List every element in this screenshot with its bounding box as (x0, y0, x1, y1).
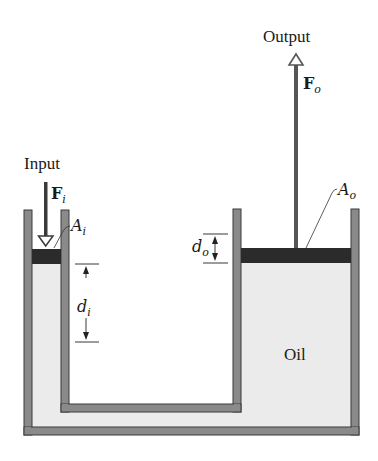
outer-right-wall (351, 209, 359, 435)
output-label: Output (263, 27, 311, 46)
inner-left-wall (61, 210, 69, 412)
input-piston (32, 249, 61, 264)
inner-bottom-wall (61, 404, 241, 412)
input-label: Input (24, 154, 60, 173)
output-area-symbol: A (336, 180, 350, 199)
input-force-subscript: i (62, 193, 66, 206)
output-displacement-subscript: o (202, 246, 209, 259)
input-displacement-subscript: i (87, 306, 91, 319)
output-force-subscript: o (314, 83, 321, 96)
input-area-subscript: i (83, 225, 87, 238)
outer-left-wall (24, 210, 32, 435)
output-piston (241, 248, 351, 263)
input-displacement-symbol: d (77, 297, 87, 316)
output-force-label: Fo (303, 74, 321, 96)
oil-label: Oil (284, 345, 306, 364)
output-displacement-label: do (192, 237, 209, 259)
output-area-subscript: o (350, 189, 357, 202)
input-displacement-label: di (77, 297, 91, 319)
output-area-label: Ao (336, 180, 357, 202)
output-force-symbol: F (303, 74, 315, 93)
output-force-arrow (289, 54, 303, 248)
input-area-symbol: A (69, 216, 83, 235)
input-force-label: Fi (51, 184, 66, 206)
output-area-leader (306, 189, 337, 248)
hydraulic-lever-diagram: Output Input Oil Fo Fi Ai Ao di do (0, 0, 378, 461)
input-force-symbol: F (51, 184, 63, 203)
output-displacement-symbol: d (192, 237, 202, 256)
inner-right-wall (233, 209, 241, 412)
outer-bottom-wall (24, 427, 359, 435)
input-area-label: Ai (69, 216, 86, 238)
